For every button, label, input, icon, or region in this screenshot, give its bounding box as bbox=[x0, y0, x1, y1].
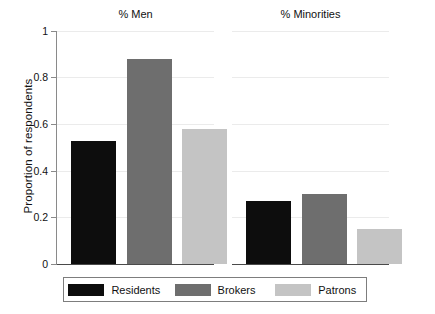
panel-percent-men: % Men bbox=[57, 31, 214, 265]
legend-swatch-residents bbox=[68, 284, 104, 296]
legend-label-patrons: Patrons bbox=[318, 284, 356, 296]
bar-minorities-brokers bbox=[302, 194, 347, 264]
y-tick-label: 0.6 bbox=[4, 119, 48, 130]
bar-men-brokers bbox=[127, 59, 172, 264]
y-tick-mark bbox=[51, 171, 56, 172]
legend-label-residents: Residents bbox=[111, 284, 160, 296]
y-tick-mark bbox=[51, 124, 56, 125]
panel-title-minorities: % Minorities bbox=[232, 8, 389, 20]
y-tick-mark bbox=[51, 77, 56, 78]
y-tick-label: 0.8 bbox=[4, 72, 48, 83]
y-axis-tick-labels: 1 0.8 0.6 0.4 0.2 0 bbox=[0, 0, 48, 314]
panel-percent-minorities: % Minorities bbox=[232, 31, 389, 265]
bar-minorities-residents bbox=[246, 201, 291, 264]
y-tick-mark bbox=[51, 31, 56, 32]
y-tick-label: 1 bbox=[4, 26, 48, 37]
legend-item-residents: Residents bbox=[64, 284, 165, 296]
panel-baseline bbox=[57, 264, 214, 265]
y-tick-label: 0 bbox=[4, 259, 48, 270]
y-tick-mark bbox=[51, 217, 56, 218]
bar-men-residents bbox=[71, 141, 116, 264]
legend-swatch-brokers bbox=[175, 284, 211, 296]
legend-item-patrons: Patrons bbox=[265, 284, 366, 296]
legend-item-brokers: Brokers bbox=[165, 284, 266, 296]
y-tick-mark bbox=[51, 264, 56, 265]
y-tick-label: 0.2 bbox=[4, 212, 48, 223]
bar-chart-figure: Proportion of respondents 1 0.8 0.6 0.4 … bbox=[0, 0, 435, 314]
legend-label-brokers: Brokers bbox=[218, 284, 256, 296]
panel-baseline bbox=[232, 264, 389, 265]
y-tick-label: 0.4 bbox=[4, 166, 48, 177]
chart-legend: Residents Brokers Patrons bbox=[63, 277, 367, 302]
legend-swatch-patrons bbox=[275, 284, 311, 296]
panel-title-men: % Men bbox=[57, 8, 214, 20]
bar-minorities-patrons bbox=[357, 229, 402, 264]
bar-men-patrons bbox=[182, 129, 227, 264]
